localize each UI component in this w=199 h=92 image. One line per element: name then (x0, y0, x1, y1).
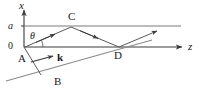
theta-arc (42, 40, 44, 47)
ray-segment-d-out (119, 31, 157, 47)
k-vector-label: k (57, 52, 63, 63)
ray-arrow-ac (36, 34, 55, 42)
x-axis-label: x (19, 0, 24, 11)
diagram-canvas (0, 0, 199, 92)
z-axis-label: z (188, 41, 192, 52)
boundary-a-label: a (8, 21, 13, 31)
k-vector-arrow (31, 56, 53, 62)
origin-label: 0 (8, 41, 13, 51)
ray-arrow-cd (80, 31, 98, 39)
point-label-a: A (18, 53, 26, 64)
point-label-d: D (114, 50, 122, 61)
point-label-b: B (54, 76, 61, 87)
theta-label: θ (30, 31, 35, 41)
waveguide-ray-diagram: x z a 0 A B C D θ k (0, 0, 199, 92)
point-label-c: C (68, 11, 75, 22)
